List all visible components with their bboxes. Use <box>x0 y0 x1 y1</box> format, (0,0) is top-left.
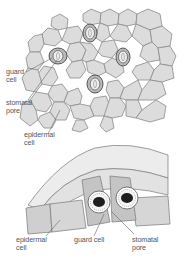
label-guard-cell-bottom: guard cell <box>74 236 104 244</box>
epidermal-cells <box>20 9 176 132</box>
label-epidermal-cell-top: epidermal cell <box>24 131 55 147</box>
stoma-surface-3 <box>116 48 130 66</box>
label-epidermal-cell-bottom: epidermal cell <box>16 236 47 252</box>
label-stomatal-pore-top: stomatal pore <box>6 99 32 115</box>
guard-cell-left <box>88 191 110 213</box>
label-stomatal-pore-bottom: stomatal pore <box>132 236 158 252</box>
stoma-cross-section <box>26 145 170 234</box>
label-guard-cell-top: guard cell <box>6 68 24 84</box>
stoma-surface-4 <box>87 75 103 93</box>
guard-cell-right <box>116 187 138 209</box>
stoma-surface-2 <box>83 24 97 42</box>
stoma-surface-1 <box>49 48 67 64</box>
